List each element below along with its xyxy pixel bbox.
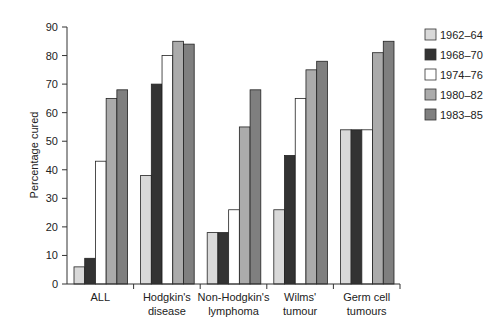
bar [218, 233, 229, 284]
bar [317, 61, 328, 284]
legend-label: 1962–64 [440, 29, 483, 41]
x-category-label: lymphoma [208, 305, 260, 317]
legend-swatch [425, 29, 436, 40]
y-tick-label: 30 [46, 192, 58, 204]
x-category-label: Germ cell [343, 291, 390, 303]
plot-area [74, 41, 394, 284]
bar [373, 53, 384, 284]
y-tick-label: 0 [52, 278, 58, 290]
bar [74, 267, 85, 284]
y-tick-label: 10 [46, 249, 58, 261]
y-tick-label: 20 [46, 221, 58, 233]
legend-swatch [425, 49, 436, 60]
legend-label: 1980–82 [440, 89, 483, 101]
bar [229, 210, 240, 284]
x-category-label: Hodgkin's [143, 291, 191, 303]
x-category-label: Non-Hodgkin's [198, 291, 270, 303]
bar [239, 127, 250, 284]
legend-label: 1983–85 [440, 109, 483, 121]
x-category-label: ALL [91, 291, 111, 303]
bar [340, 130, 351, 284]
bar [274, 210, 285, 284]
bar [362, 130, 373, 284]
bar [351, 130, 362, 284]
bar [383, 41, 394, 284]
bar-chart: 0102030405060708090 ALLHodgkin'sdiseaseN… [0, 0, 503, 324]
bar [306, 70, 317, 284]
legend: 1962–641968–701974–761980–821983–85 [425, 29, 483, 121]
bar [162, 56, 173, 284]
y-axis: 0102030405060708090 [46, 21, 67, 290]
x-category-label: tumours [347, 305, 387, 317]
bar [117, 90, 128, 284]
bar [295, 98, 306, 284]
legend-swatch [425, 69, 436, 80]
bar [183, 44, 194, 284]
bar [285, 156, 296, 285]
legend-swatch [425, 109, 436, 120]
y-tick-label: 70 [46, 78, 58, 90]
y-tick-label: 50 [46, 135, 58, 147]
y-tick-label: 60 [46, 107, 58, 119]
bar [106, 98, 117, 284]
legend-label: 1968–70 [440, 49, 483, 61]
bar [141, 175, 152, 284]
bar [95, 161, 106, 284]
y-tick-label: 90 [46, 21, 58, 33]
bar [250, 90, 261, 284]
y-tick-label: 80 [46, 50, 58, 62]
bar [85, 258, 96, 284]
x-category-label: Wilms' [284, 291, 316, 303]
bar [207, 233, 218, 284]
x-category-label: tumour [283, 305, 318, 317]
bar [173, 41, 184, 284]
y-axis-label: Percentage cured [28, 112, 40, 199]
legend-label: 1974–76 [440, 69, 483, 81]
y-tick-label: 40 [46, 164, 58, 176]
legend-swatch [425, 89, 436, 100]
bar [151, 84, 162, 284]
x-category-label: disease [148, 305, 186, 317]
x-axis: ALLHodgkin'sdiseaseNon-Hodgkin'slymphoma… [67, 284, 400, 317]
